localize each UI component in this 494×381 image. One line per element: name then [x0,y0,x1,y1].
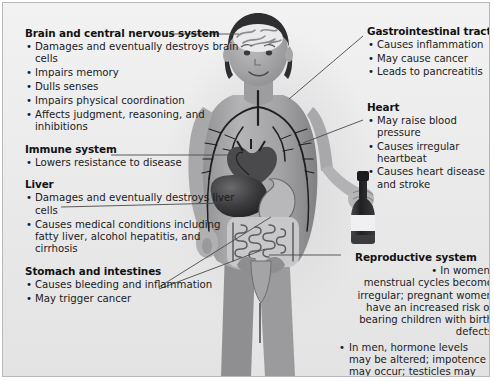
callout-heart: Heart •May raise blood pressure •Causes … [367,101,490,191]
bullet-icon: • [26,67,32,79]
bullet-icon: • [26,41,32,53]
callout-heading-brain: Brain and central nervous system [25,27,240,39]
callout-gastrointestinal: Gastrointestinal tract •Causes inflammat… [367,25,490,79]
list-item-text: Causes medical conditions including fatt… [35,219,220,255]
callout-heading-heart: Heart [367,101,490,113]
list-item: •Impairs memory [25,67,240,79]
bullet-icon: • [368,66,374,78]
callout-heading-reproductive: Reproductive system [355,251,490,263]
list-item: •May cause cancer [367,53,490,65]
list-item-text: Affects judgment, reasoning, and inhibit… [35,109,205,132]
list-item: •Causes medical conditions including fat… [25,219,240,256]
list-item-text: May cause cancer [377,53,468,64]
bullet-icon: • [368,53,374,65]
bullet-icon: • [26,95,32,107]
bullet-icon: • [368,166,374,178]
callout-heading-liver: Liver [25,178,240,190]
list-item-text: Damages and eventually destroys brain ce… [35,41,239,64]
list-item: •May raise blood pressure [367,115,490,139]
list-item: •Damages and eventually destroys liver c… [25,192,240,217]
callout-heading-stomach: Stomach and intestines [25,265,240,277]
callout-immune: Immune system •Lowers resistance to dise… [25,143,240,169]
list-item: •Damages and eventually destroys brain c… [25,41,240,66]
brain-organ [233,24,283,52]
bullet-icon: • [26,81,32,93]
callout-brain: Brain and central nervous system •Damage… [25,27,240,134]
list-item-text: Causes heart disease and stroke [377,166,485,189]
list-item-text: Causes irregular heartbeat [377,141,459,164]
list-item: •Lowers resistance to disease [25,157,240,169]
list-item-text: Causes bleeding and inflammation [35,279,212,290]
diagram-panel: Brain and central nervous system •Damage… [2,2,490,377]
list-item-text: In men, hormone levels may be altered; i… [349,342,486,377]
text-wrap-spacer [333,265,385,277]
bullet-icon: • [26,293,32,305]
list-item: •Causes bleeding and inflammation [25,279,240,291]
list-item: •Leads to pancreatitis [367,66,490,78]
callout-heading-immune: Immune system [25,143,240,155]
bullet-icon: • [368,115,374,127]
bullet-icon: • [26,192,32,204]
callout-liver: Liver •Damages and eventually destroys l… [25,178,240,256]
list-item: •Causes heart disease and stroke [367,166,490,190]
callout-heading-gastrointestinal: Gastrointestinal tract [367,25,490,37]
list-item: • In women, menstrual cycles become irre… [333,265,490,339]
list-item-text: Impairs physical coordination [35,95,185,106]
bullet-icon: • [431,265,437,276]
callout-reproductive: Reproductive system • In women, menstrua… [333,251,490,377]
bullet-icon: • [26,279,32,291]
list-item: •Causes inflammation [367,39,490,51]
callout-bullets-immune: •Lowers resistance to disease [25,157,240,169]
callout-bullets-liver: •Damages and eventually destroys liver c… [25,192,240,256]
list-item: •Impairs physical coordination [25,95,240,107]
bullet-icon: • [339,342,345,354]
callout-column-left: Brain and central nervous system •Damage… [25,27,240,307]
bullet-icon: • [368,141,374,153]
list-item-text: Causes inflammation [377,39,484,50]
bullet-icon: • [26,157,32,169]
list-item-text: Dulls senses [35,81,98,92]
bullet-icon: • [26,109,32,121]
list-item-text: May raise blood pressure [377,115,457,138]
list-item: •Causes irregular heartbeat [367,141,490,165]
list-item: •May trigger cancer [25,293,240,305]
leader-gi [289,36,363,99]
callout-bullets-heart: •May raise blood pressure •Causes irregu… [367,115,490,191]
list-item: • In men, hormone levels may be altered;… [339,342,490,377]
bullet-icon: • [368,39,374,51]
list-item-text: Impairs memory [35,67,119,78]
list-item-text: May trigger cancer [35,293,131,304]
callout-bullets-brain: •Damages and eventually destroys brain c… [25,41,240,134]
callout-bullets-stomach: •Causes bleeding and inflammation •May t… [25,279,240,305]
callout-stomach: Stomach and intestines •Causes bleeding … [25,265,240,305]
list-item-text: Damages and eventually destroys liver ce… [35,192,235,215]
bullet-icon: • [26,219,32,231]
callout-column-right: Gastrointestinal tract •Causes inflammat… [367,25,490,192]
list-item: •Affects judgment, reasoning, and inhibi… [25,109,240,134]
callout-bullets-gastrointestinal: •Causes inflammation •May cause cancer •… [367,39,490,79]
list-item-text: Lowers resistance to disease [35,157,182,168]
list-item: •Dulls senses [25,81,240,93]
list-item-text: Leads to pancreatitis [377,66,483,77]
